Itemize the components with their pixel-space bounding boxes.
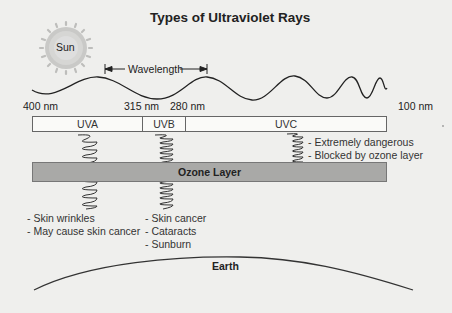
- uvb-note-1: - Skin cancer: [145, 212, 206, 225]
- scale-400nm: 400 nm: [23, 100, 58, 112]
- uvb-note-3: - Sunburn: [145, 238, 206, 251]
- band-uva: UVA: [32, 116, 143, 132]
- uvb-notes: - Skin cancer - Cataracts - Sunburn: [145, 212, 206, 251]
- uvc-note-1: - Extremely dangerous: [308, 136, 423, 149]
- uva-notes: - Skin wrinkles - May cause skin cancer: [27, 212, 140, 238]
- uvb-note-2: - Cataracts: [145, 225, 206, 238]
- uva-note-1: - Skin wrinkles: [27, 212, 140, 225]
- ozone-layer: Ozone Layer: [32, 162, 387, 182]
- scale-315nm: 315 nm: [124, 100, 159, 112]
- uva-note-2: - May cause skin cancer: [27, 225, 140, 238]
- scale-280nm: 280 nm: [170, 100, 205, 112]
- uvc-notes: - Extremely dangerous - Blocked by ozone…: [308, 136, 423, 162]
- uvc-note-2: - Blocked by ozone layer: [308, 149, 423, 162]
- diagram-title: Types of Ultraviolet Rays: [150, 10, 310, 25]
- uv-wave: [32, 76, 387, 100]
- scale-100nm: 100 nm: [398, 100, 433, 112]
- stray-dot: [442, 125, 444, 127]
- wavelength-label: Wavelength: [128, 63, 183, 75]
- earth-label: Earth: [212, 260, 239, 272]
- band-uvb: UVB: [142, 116, 186, 132]
- uv-rays-diagram: Types of Ultraviolet Rays Sun Wavelength…: [0, 0, 452, 313]
- sun-label: Sun: [56, 41, 75, 53]
- band-uvc: UVC: [185, 116, 387, 132]
